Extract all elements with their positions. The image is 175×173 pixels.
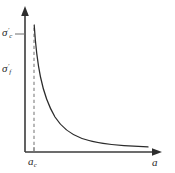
x-axis-arrowhead [152, 148, 162, 156]
sigma-subscript-upper: c [9, 32, 12, 39]
y-axis-label-upper: σ′c [2, 27, 12, 38]
x-axis-symbol: a [152, 156, 158, 168]
stress-crack-size-figure: σ′c σ′f ac a [0, 0, 175, 173]
critical-crack-subscript: c [34, 161, 37, 168]
sigma-subscript-lower: f [9, 68, 11, 75]
x-axis-label-critical: ac [28, 156, 37, 167]
sigma-symbol-lower: σ [2, 62, 7, 74]
critical-crack-symbol: a [28, 155, 34, 167]
y-axis-label-lower: σ′f [2, 63, 11, 74]
x-axis-label: a [152, 157, 158, 168]
sigma-symbol-upper: σ [2, 26, 7, 38]
stress-decay-curve [34, 25, 148, 147]
plot-canvas [0, 0, 175, 173]
y-axis-arrowhead [21, 6, 29, 16]
